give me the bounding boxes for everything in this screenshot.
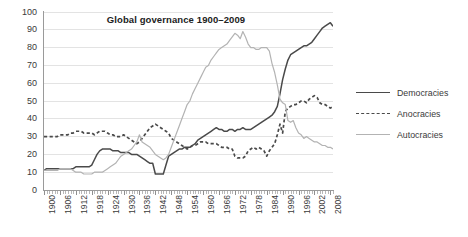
legend-item-anocracies: Anocracies [356,103,468,124]
x-tick-mark [126,191,127,194]
x-tick-mark [256,191,257,194]
x-tick-mark [182,191,183,194]
x-tick-label: 1936 [143,195,152,214]
x-tick-mark [174,191,175,194]
x-tick-mark [185,191,186,194]
x-tick-mark [57,191,58,194]
x-tick-mark [145,191,146,194]
x-tick-mark [230,191,231,194]
x-tick-mark [137,191,138,194]
x-tick-mark [89,191,90,194]
x-tick-mark [285,191,286,194]
x-tick-label: 1972 [239,195,248,214]
x-tick-mark [65,191,66,194]
x-tick-mark [277,191,278,194]
y-tick-label: 10 [27,168,37,177]
x-tick-mark [49,191,50,194]
x-tick-label: 1960 [207,195,216,214]
legend-label-anocracies: Anocracies [397,109,441,119]
x-tick-mark [118,191,119,194]
x-tick-mark [214,191,215,194]
x-tick-mark [166,191,167,194]
chart-legend: Democracies Anocracies Autocracies [356,82,468,145]
x-tick-label: 1984 [271,195,280,214]
x-tick-mark [275,191,276,194]
x-tick-mark [216,191,217,194]
x-tick-label: 1906 [64,195,73,214]
legend-item-autocracies: Autocracies [356,124,468,145]
x-tick-label: 1996 [303,195,312,214]
x-tick-mark [304,191,305,194]
x-tick-label: 1930 [128,195,137,214]
x-tick-mark [232,191,233,194]
x-tick-mark [100,191,101,194]
x-tick-mark [296,191,297,194]
x-tick-mark [102,191,103,194]
x-tick-mark [198,191,199,194]
x-tick-mark [52,191,53,194]
x-tick-label: 2008 [334,195,343,214]
x-tick-mark [55,191,56,194]
x-tick-mark [147,191,148,194]
x-tick-mark [71,191,72,194]
x-tick-mark [161,191,162,194]
x-tick-mark [227,191,228,194]
x-tick-label: 1942 [159,195,168,214]
x-tick-mark [195,191,196,194]
x-tick-mark [224,191,225,194]
x-tick-mark [222,191,223,194]
x-tick-mark [293,191,294,194]
y-tick-label: 20 [27,150,37,159]
x-tick-mark [73,191,74,194]
x-tick-mark [134,191,135,194]
x-tick-mark [97,191,98,194]
x-tick-mark [129,191,130,194]
x-axis-tick-labels: 1900190619121918192419301936194219481954… [0,195,468,237]
x-tick-mark [110,191,111,194]
x-tick-mark [200,191,201,194]
x-tick-label: 1990 [287,195,296,214]
series-line-democracies [44,23,333,174]
x-tick-mark [272,191,273,194]
x-tick-mark [84,191,85,194]
x-tick-mark [264,191,265,194]
x-tick-mark [309,191,310,194]
y-tick-label: 30 [27,132,37,141]
x-tick-mark [269,191,270,194]
x-tick-mark [150,191,151,194]
x-tick-mark [240,191,241,194]
x-tick-label: 1924 [112,195,121,214]
x-tick-label: 1900 [48,195,57,214]
y-tick-label: 50 [27,97,37,106]
legend-item-democracies: Democracies [356,82,468,103]
x-tick-mark [158,191,159,194]
x-tick-mark [211,191,212,194]
x-tick-mark [206,191,207,194]
x-tick-mark [153,191,154,194]
chart-figure: Global governance 1900–2009 010203040506… [0,0,468,237]
legend-label-democracies: Democracies [397,88,448,98]
x-tick-mark [86,191,87,194]
x-tick-mark [63,191,64,194]
x-tick-mark [238,191,239,194]
x-tick-mark [177,191,178,194]
x-tick-mark [142,191,143,194]
x-tick-mark [79,191,80,194]
y-tick-label: 100 [22,8,37,17]
y-tick-label: 90 [27,25,37,34]
x-tick-mark [179,191,180,194]
x-tick-mark [288,191,289,194]
x-tick-mark [208,191,209,194]
y-tick-label: 60 [27,79,37,88]
x-tick-mark [322,191,323,194]
x-tick-mark [68,191,69,194]
x-tick-mark [254,191,255,194]
series-line-autocracies [44,32,333,174]
x-tick-mark [333,191,334,194]
x-tick-mark [301,191,302,194]
y-tick-label: 70 [27,61,37,70]
x-tick-mark [259,191,260,194]
x-tick-mark [261,191,262,194]
x-tick-label: 2002 [318,195,327,214]
x-tick-mark [163,191,164,194]
